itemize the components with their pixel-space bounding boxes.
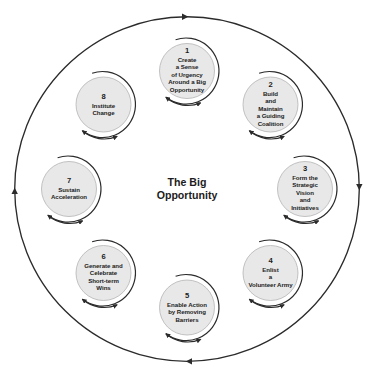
- step-5-circle[interactable]: [160, 280, 215, 335]
- step-7-circle[interactable]: [42, 162, 97, 217]
- step-circles-group: [42, 44, 333, 336]
- step-6-circle[interactable]: [76, 246, 131, 301]
- step-1-circle[interactable]: [160, 44, 215, 99]
- diagram-canvas: [0, 0, 374, 377]
- step-4-circle[interactable]: [243, 246, 298, 301]
- step-8-circle[interactable]: [76, 77, 131, 132]
- step-3-circle[interactable]: [278, 162, 333, 217]
- step-2-circle[interactable]: [243, 77, 298, 132]
- change-model-diagram: 1 Create a Sense of Urgency Around a Big…: [0, 0, 374, 377]
